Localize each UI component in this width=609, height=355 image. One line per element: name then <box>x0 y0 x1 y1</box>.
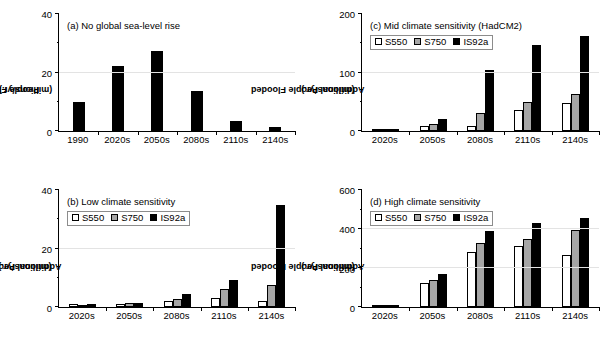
bar-2050s-S750 <box>429 124 438 131</box>
x-axis-tick <box>295 131 296 135</box>
bar-2050s-S550 <box>420 126 429 131</box>
x-axis-label-2080s: 2080s <box>456 134 504 145</box>
y-axis-major-tick <box>55 13 59 14</box>
x-axis-label-2140s: 2140s <box>248 310 295 321</box>
bar-2140s-IS92a <box>276 205 285 307</box>
y-axis-tick-label: 20 <box>41 244 52 255</box>
bar-2020s-S550 <box>69 304 78 307</box>
panel-c-x-labels: 2020s2050s2080s2110s2140s <box>361 134 599 145</box>
panel-b-bars <box>59 190 295 307</box>
bar-2050s-S550 <box>420 283 429 307</box>
y-axis-minor-tick <box>360 42 363 43</box>
panel-a-axes: (a) No global sea-level rise <box>58 14 295 132</box>
bar-2140s-S750 <box>267 285 276 307</box>
x-axis-label-2080s: 2080s <box>456 310 504 321</box>
panel-d-y-ticks: 0200400600 <box>329 190 359 308</box>
bar-2080s-IS92a <box>485 231 494 308</box>
x-axis-label-2110s: 2110s <box>504 134 552 145</box>
x-axis-label-2110s: 2110s <box>504 310 552 321</box>
panel-c-axes: (c) Mid climate sensitivity (HadCM2) S55… <box>361 14 599 132</box>
x-axis-label-2110s: 2110s <box>200 310 247 321</box>
bar-2140s-S550 <box>562 103 571 131</box>
bar-2080s-IS92a <box>485 70 494 131</box>
y-axis-major-tick <box>55 72 59 73</box>
y-axis-tick-label: 100 <box>339 68 355 79</box>
y-axis-tick-label: 0 <box>350 127 355 138</box>
y-axis-tick-label: 20 <box>41 68 52 79</box>
bar-group-2020s <box>59 190 106 307</box>
bar-2080s-S550 <box>467 252 476 307</box>
bar-group-2110s <box>216 14 255 131</box>
bar-group-2020s <box>362 190 409 307</box>
bar-2140s-S550 <box>562 255 571 307</box>
bar-group-2080s <box>457 14 504 131</box>
y-axis-major-tick <box>358 306 362 307</box>
bar-2020s-S550 <box>372 305 381 307</box>
bar-group-2020s <box>362 14 409 131</box>
bar-group-2140s <box>256 14 295 131</box>
bar-2140s-IS92a <box>580 218 589 307</box>
bar-2080s-S750 <box>173 299 182 307</box>
y-axis-major-tick <box>358 13 362 14</box>
gridline <box>362 72 599 73</box>
y-axis-tick-label: 200 <box>339 263 355 274</box>
y-axis-minor-tick <box>57 42 60 43</box>
panel-d-plot-area: 0200400600 (d) High climate sensitivity … <box>329 176 609 355</box>
bar-2050s-S750 <box>125 303 134 307</box>
x-axis-label-2020s: 2020s <box>98 134 138 145</box>
y-axis-major-tick <box>55 130 59 131</box>
y-axis-major-tick <box>358 189 362 190</box>
panel-b-y-axis-label: Additional People Flooded(millions/yr.) <box>2 176 28 355</box>
bar-2110s-S750 <box>523 239 532 307</box>
panel-b-x-labels: 2020s2050s2080s2110s2140s <box>58 310 295 321</box>
bar-2080s-S550 <box>467 126 476 131</box>
bar-2050s-IS92a <box>134 303 143 307</box>
panel-c-y-ticks: 0100200 <box>329 14 359 132</box>
bar-group-2110s <box>201 190 248 307</box>
bar-2110s-S750 <box>220 289 229 307</box>
bar-group-2050s <box>409 190 456 307</box>
y-axis-minor-tick <box>57 218 60 219</box>
panel-a-bars <box>59 14 295 131</box>
bar-2110s-IS92a <box>229 280 238 307</box>
bar-2140s-S750 <box>571 94 580 131</box>
y-axis-minor-tick <box>360 101 363 102</box>
y-axis-tick-label: 40 <box>41 185 52 196</box>
x-axis-label-2050s: 2050s <box>409 310 457 321</box>
bar-group-2140s <box>248 190 295 307</box>
x-axis-label-2080s: 2080s <box>177 134 217 145</box>
bar-2110s <box>230 121 242 131</box>
figure-container: People Flooded(millions/yr.) 02040 (a) N… <box>0 0 609 355</box>
panel-d: Additional People Flooded(millions/yr.) … <box>303 176 609 355</box>
bar-2020s-IS92a <box>87 304 96 307</box>
bar-2020s-IS92a <box>390 305 399 307</box>
bar-group-2080s <box>457 190 504 307</box>
bar-2140s-S550 <box>258 301 267 307</box>
y-axis-major-tick <box>358 72 362 73</box>
bar-2110s-S750 <box>523 102 532 131</box>
bar-2020s-IS92a <box>390 129 399 131</box>
x-axis-label-2020s: 2020s <box>361 134 409 145</box>
x-axis-label-2140s: 2140s <box>256 134 296 145</box>
y-axis-minor-tick <box>360 287 363 288</box>
y-axis-minor-tick <box>57 277 60 278</box>
y-axis-major-tick <box>358 228 362 229</box>
bar-group-2140s <box>552 14 599 131</box>
bar-group-2050s <box>409 14 456 131</box>
bar-2020s-S550 <box>372 129 381 131</box>
y-axis-minor-tick <box>360 248 363 249</box>
panel-d-bars <box>362 190 599 307</box>
x-axis-label-2050s: 2050s <box>409 134 457 145</box>
y-axis-major-tick <box>358 130 362 131</box>
bar-2050s-S550 <box>116 304 125 307</box>
x-axis-label-2110s: 2110s <box>216 134 256 145</box>
y-axis-minor-tick <box>57 101 60 102</box>
gridline <box>362 228 599 229</box>
y-axis-major-tick <box>55 189 59 190</box>
bar-2110s-S550 <box>514 110 523 131</box>
bar-group-2050s <box>106 190 153 307</box>
x-axis-label-1990: 1990 <box>58 134 98 145</box>
bar-2020s-S750 <box>381 129 390 131</box>
bar-group-2110s <box>504 14 551 131</box>
x-axis-tick <box>599 307 600 311</box>
